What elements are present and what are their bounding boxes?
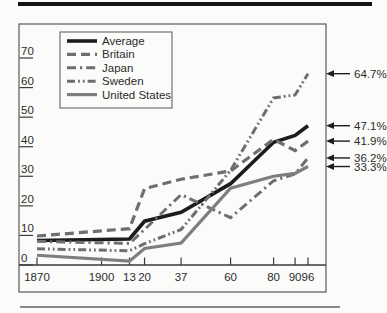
figure-page: 010203040506070187019001320376080909647.… [0, 0, 387, 313]
end-value-label: 41.9% [354, 135, 387, 147]
y-tick-label: 50 [21, 104, 34, 116]
left-arrowhead-icon [326, 155, 334, 162]
legend-label: United States [102, 89, 171, 101]
y-tick-label: 30 [21, 163, 34, 175]
x-tick-label: 80 [267, 271, 280, 283]
x-tick-label: 1900 [89, 271, 115, 283]
y-tick-label: 60 [21, 75, 34, 87]
legend-label: Sweden [102, 75, 144, 87]
series-line-britain [37, 139, 308, 236]
end-value-label: 33.3% [354, 161, 387, 173]
left-arrowhead-icon [326, 70, 334, 77]
y-tick-label: 40 [21, 134, 34, 146]
left-arrowhead-icon [326, 163, 334, 170]
left-arrowhead-icon [326, 138, 334, 145]
y-tick-label: 0 [21, 252, 27, 264]
end-value-label: 47.1% [354, 120, 387, 132]
legend-label: Average [102, 35, 145, 47]
bottom-rule [20, 306, 340, 308]
end-value-label: 64.7% [354, 68, 387, 80]
y-tick-label: 10 [21, 222, 34, 234]
legend-label: Britain [102, 48, 135, 60]
x-tick-label: 13 [123, 271, 136, 283]
left-arrowhead-icon [326, 122, 334, 129]
y-tick-label: 20 [21, 193, 34, 205]
x-tick-label: 37 [175, 271, 188, 283]
government-spending-line-chart: 010203040506070187019001320376080909647.… [0, 0, 387, 313]
legend-label: Japan [102, 62, 133, 74]
y-tick-label: 70 [21, 45, 34, 57]
x-tick-label: 20 [138, 271, 151, 283]
series-line-japan [37, 158, 308, 243]
x-tick-label: 60 [224, 271, 237, 283]
x-tick-label: 96 [302, 271, 315, 283]
x-tick-label: 1870 [24, 271, 50, 283]
x-tick-label: 90 [289, 271, 302, 283]
